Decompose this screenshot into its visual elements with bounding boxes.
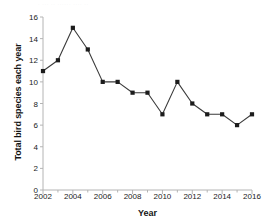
data-point-marker: 2008: 9 — [130, 91, 134, 95]
data-point-marker: 2004: 15 — [71, 26, 75, 30]
data-point-marker: 2002: 11 — [41, 69, 45, 73]
y-axis-tick-label: 2 — [8, 164, 38, 173]
y-axis-tick-label: 10 — [8, 77, 38, 86]
y-axis-tick-label: 8 — [8, 99, 38, 108]
y-axis-tick-labels: 0246810121416 — [5, 0, 38, 224]
bird-species-line-chart: · ··· ·· ······ ···· ·· Total bird speci… — [0, 0, 267, 224]
data-point-marker: 2009: 9 — [145, 91, 149, 95]
axis-spines — [43, 17, 252, 190]
data-point-marker: 2006: 10 — [101, 80, 105, 84]
plot-area: 2002: 112003: 122004: 152005: 132006: 10… — [0, 0, 267, 224]
data-point-marker: 2012: 8 — [190, 101, 194, 105]
y-axis-tick-label: 14 — [8, 34, 38, 43]
y-axis-tick-label: 4 — [8, 142, 38, 151]
y-axis-tick-label: 6 — [8, 121, 38, 130]
data-point-markers: 2002: 112003: 122004: 152005: 132006: 10… — [41, 26, 254, 128]
data-point-marker: 2013: 7 — [205, 112, 209, 116]
data-point-marker: 2007: 10 — [116, 80, 120, 84]
data-point-marker: 2015: 6 — [235, 123, 239, 127]
data-point-marker: 2011: 10 — [175, 80, 179, 84]
x-axis-title: Year — [43, 208, 252, 218]
x-axis-tick-label: 2016 — [235, 192, 267, 201]
data-point-marker: 2014: 7 — [220, 112, 224, 116]
data-point-marker: 2010: 7 — [160, 112, 164, 116]
data-point-marker: 2005: 13 — [86, 47, 90, 51]
scan-artifact-text: · ··· ·· ······ ···· ·· — [38, 1, 158, 7]
data-point-marker: 2016: 7 — [250, 112, 254, 116]
data-line — [43, 28, 252, 125]
data-point-marker: 2003: 12 — [56, 58, 60, 62]
y-axis-tick-label: 12 — [8, 56, 38, 65]
y-axis-tick-label: 16 — [8, 13, 38, 22]
